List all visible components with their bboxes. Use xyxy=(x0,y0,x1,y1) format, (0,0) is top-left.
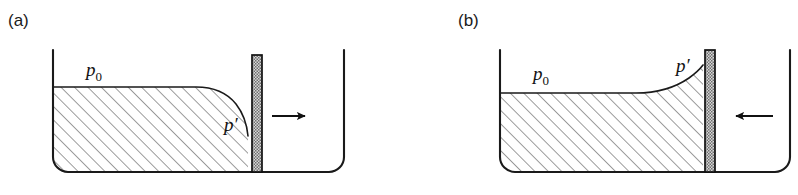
ambient-pressure-subscript-a: 0 xyxy=(96,69,103,84)
liquid-fill-b xyxy=(496,65,703,176)
ambient-pressure-label-b: p0 xyxy=(531,63,549,88)
piston-plate-b[interactable] xyxy=(705,50,715,172)
panel-label-b: (b) xyxy=(458,11,479,30)
liquid-fill-a xyxy=(49,87,248,176)
figure-root: (a) p0 p′ (b) p0 p′ xyxy=(0,0,798,195)
ambient-pressure-subscript-b: 0 xyxy=(543,73,550,88)
local-pressure-symbol-b: p xyxy=(674,55,686,76)
panel-b: (b) p0 p′ xyxy=(458,11,790,176)
liquid-body-b xyxy=(496,65,703,176)
ambient-pressure-label-a: p0 xyxy=(84,59,102,84)
panel-label-a: (a) xyxy=(8,11,29,30)
panel-a: (a) p0 p′ xyxy=(8,11,344,176)
piston-plate-a[interactable] xyxy=(252,55,262,172)
two-panel-piston-liquid-diagram: (a) p0 p′ (b) p0 p′ xyxy=(0,0,798,195)
local-pressure-prime-b: ′ xyxy=(686,55,691,76)
ambient-pressure-symbol-a: p xyxy=(84,59,96,80)
liquid-body-a xyxy=(49,87,248,176)
local-pressure-label-a: p′ xyxy=(222,114,239,135)
local-pressure-label-b: p′ xyxy=(674,55,691,76)
local-pressure-symbol-a: p xyxy=(222,114,234,135)
ambient-pressure-symbol-b: p xyxy=(531,63,543,84)
